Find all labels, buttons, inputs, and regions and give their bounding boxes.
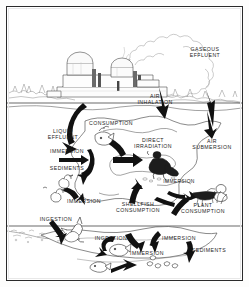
label-direct-irradiation: DIRECT IRRADIATION — [134, 137, 172, 149]
label-ingestion-fish: INGESTION — [95, 235, 128, 241]
label-ingestion-bird: INGESTION — [40, 216, 73, 222]
label-immersion-water: IMMERSION — [162, 235, 196, 241]
label-plant-consumption: PLANT CONSUMPTION — [181, 202, 225, 214]
label-gaseous-effluent: GASEOUS EFFLUENT — [190, 46, 220, 58]
figure-canvas: GASEOUS EFFLUENT AIR INHALATION CONSUMPT… — [0, 0, 249, 287]
label-immersion-bottom: IMMERSION — [130, 250, 164, 256]
figure-frame: GASEOUS EFFLUENT AIR INHALATION CONSUMPT… — [6, 6, 243, 281]
label-air-submersion: AIR SUBMERSION — [192, 138, 231, 150]
label-sediments-left: SEDIMENTS — [50, 165, 84, 171]
label-sediments-bottom: SEDIMENTS — [192, 247, 226, 253]
label-immersion-duck: IMMERSION — [67, 198, 101, 204]
label-shellfish-consumption: SHELLFISH CONSUMPTION — [116, 201, 160, 213]
label-immersion-boat: IMMERSION — [163, 179, 194, 185]
label-immersion-shore: IMMERSION — [50, 148, 84, 154]
label-consumption: CONSUMPTION — [89, 120, 133, 126]
label-liquid-effluent: LIQUID EFFLUENT — [48, 128, 78, 140]
label-air-inhalation: AIR INHALATION — [137, 93, 172, 105]
